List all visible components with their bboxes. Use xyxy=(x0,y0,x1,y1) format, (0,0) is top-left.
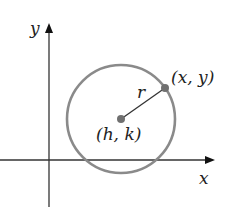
circle-diagram: y x r (x, y) (h, k) xyxy=(0,0,234,207)
center-label: (h, k) xyxy=(96,126,141,143)
point-label: (x, y) xyxy=(171,69,214,86)
radius-label: r xyxy=(137,84,145,101)
circle-point xyxy=(161,84,169,92)
x-axis-label: x xyxy=(199,170,209,187)
y-axis-label: y xyxy=(30,20,40,37)
center-point xyxy=(117,115,125,123)
